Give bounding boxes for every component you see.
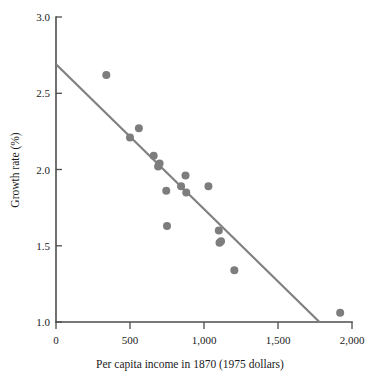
y-tick-label-2-5: 2.5 bbox=[36, 87, 50, 99]
data-point bbox=[182, 188, 190, 196]
data-point bbox=[204, 182, 212, 190]
data-point bbox=[126, 133, 134, 141]
y-tick-label-1-0: 1.0 bbox=[36, 316, 50, 328]
y-tick-label-3-0: 3.0 bbox=[36, 11, 50, 23]
data-point bbox=[230, 266, 238, 274]
plot-area: 3.0 2.5 2.0 1.5 1.0 0 500 1,000 1,500 2,… bbox=[0, 0, 377, 378]
data-point bbox=[102, 71, 110, 79]
data-point bbox=[182, 172, 190, 180]
data-points-group bbox=[102, 71, 344, 317]
data-point bbox=[336, 309, 344, 317]
x-tick-label-0: 0 bbox=[53, 334, 59, 346]
data-point bbox=[177, 182, 185, 190]
x-tick-label-500: 500 bbox=[122, 334, 139, 346]
data-point bbox=[215, 227, 223, 235]
y-tick-label-1-5: 1.5 bbox=[36, 240, 50, 252]
data-point bbox=[135, 124, 143, 132]
data-point bbox=[150, 152, 158, 160]
x-tick-label-2000: 2,000 bbox=[340, 334, 365, 346]
scatter-chart: 3.0 2.5 2.0 1.5 1.0 0 500 1,000 1,500 2,… bbox=[0, 0, 377, 378]
y-axis-ticks bbox=[56, 17, 62, 322]
x-axis-ticks bbox=[56, 322, 352, 329]
y-axis-title: Growth rate (%) bbox=[9, 132, 22, 208]
y-tick-label-2-0: 2.0 bbox=[36, 164, 50, 176]
x-tick-label-1000: 1,000 bbox=[192, 334, 217, 346]
data-point bbox=[156, 159, 164, 167]
data-point bbox=[163, 222, 171, 230]
data-point bbox=[217, 237, 225, 245]
x-axis-title: Per capita income in 1870 (1975 dollars) bbox=[96, 358, 284, 371]
data-point bbox=[162, 187, 170, 195]
x-tick-label-1500: 1,500 bbox=[266, 334, 291, 346]
